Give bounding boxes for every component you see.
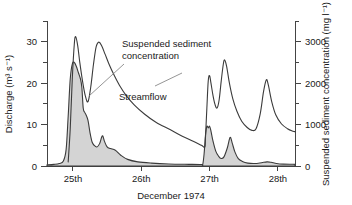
tick-label-x: 28th xyxy=(269,173,288,184)
chart-figure: 0102030 Discharge (m³ s⁻¹) 0100020003000… xyxy=(0,0,352,205)
axis-bottom: 25th26th27th28th December 1974 xyxy=(47,166,295,201)
leader-streamflow xyxy=(155,73,182,86)
tick-label-left: 10 xyxy=(26,119,37,130)
tick-label-x: 26th xyxy=(132,173,151,184)
tick-label-right: 0 xyxy=(305,161,310,172)
axis-left: 0102030 Discharge (m³ s⁻¹) xyxy=(3,21,47,172)
annotation-suspended-sediment: Suspended sediment concentration xyxy=(122,38,212,61)
tick-label-x: 27th xyxy=(200,173,219,184)
annotation-streamflow: Streamflow xyxy=(119,91,167,102)
axis-right-title-line1: Suspended sediment concentration (mg l⁻¹… xyxy=(320,2,331,186)
axis-left-title: Discharge (m³ s⁻¹) xyxy=(3,55,14,133)
chart-svg: 0102030 Discharge (m³ s⁻¹) 0100020003000… xyxy=(0,0,352,205)
tick-label-x: 25th xyxy=(64,173,83,184)
annotation-sediment-line1: Suspended sediment xyxy=(122,38,212,49)
tick-label-left: 20 xyxy=(26,78,37,89)
tick-label-left: 30 xyxy=(26,36,37,47)
streamflow-area xyxy=(47,62,295,166)
axis-right: 0100020003000 Suspended sediment concent… xyxy=(295,2,331,186)
tick-label-left: 0 xyxy=(32,161,37,172)
axis-bottom-title: December 1974 xyxy=(137,190,205,201)
annotation-sediment-line2: concentration xyxy=(122,50,179,61)
